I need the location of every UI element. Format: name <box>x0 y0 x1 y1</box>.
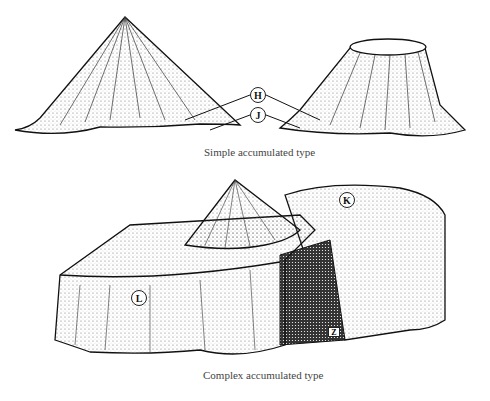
label-l: L <box>131 290 147 306</box>
simple-truncated-mound <box>280 39 465 136</box>
complex-accumulated-structure <box>55 180 445 354</box>
illustration-canvas <box>0 0 490 401</box>
label-k: K <box>339 192 355 208</box>
caption-simple: Simple accumulated type <box>204 146 315 158</box>
orientation-marker: Z <box>328 327 340 337</box>
label-h: H <box>250 87 266 103</box>
label-j: J <box>250 107 266 123</box>
caption-complex: Complex accumulated type <box>203 369 323 381</box>
simple-cone-mound <box>15 17 240 133</box>
